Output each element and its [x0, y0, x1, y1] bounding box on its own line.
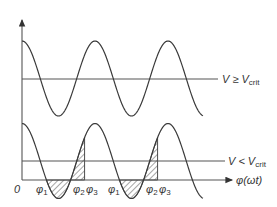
x-axis-label: φ(ωt) [236, 174, 262, 186]
phase-label-phi2-a: φ2 [73, 183, 85, 197]
upper-condition-label: V ≥ Vcrit [222, 73, 260, 87]
phase-label-phi1-a: φ1 [36, 183, 48, 197]
phase-diagram: V ≥ Vcrit V < Vcrit φ(ωt) 0 φ1 φ2 φ3 φ1 … [0, 0, 277, 207]
phase-label-phi3-b: φ3 [159, 183, 171, 197]
phase-label-phi3-a: φ3 [86, 183, 98, 197]
origin-label: 0 [14, 183, 21, 195]
lower-condition-label: V < Vcrit [228, 155, 267, 169]
phase-label-phi1-b: φ1 [108, 183, 120, 197]
phase-label-phi2-b: φ2 [146, 183, 158, 197]
